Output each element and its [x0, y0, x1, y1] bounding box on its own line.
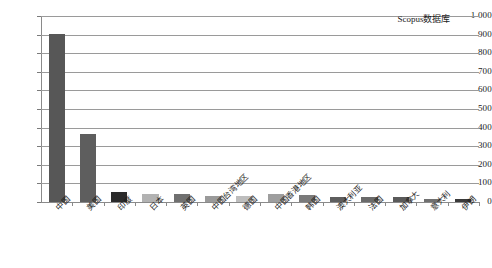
gridline [41, 128, 479, 129]
x-axis-tick-mark [135, 202, 136, 206]
plot-area [41, 16, 479, 202]
gridline [41, 35, 479, 36]
x-axis-tick-mark [448, 202, 449, 206]
gridline [41, 146, 479, 147]
x-axis-tick-mark [479, 202, 480, 206]
gridline [41, 183, 479, 184]
x-axis-tick-mark [323, 202, 324, 206]
bar [80, 134, 96, 202]
gridline [41, 53, 479, 54]
x-axis-tick-mark [229, 202, 230, 206]
x-axis-tick-mark [197, 202, 198, 206]
x-axis-tick-mark [291, 202, 292, 206]
gridline [41, 109, 479, 110]
gridline [41, 165, 479, 166]
x-axis-tick-mark [72, 202, 73, 206]
x-axis-tick-mark [416, 202, 417, 206]
gridline [41, 72, 479, 73]
gridline [41, 90, 479, 91]
x-axis-tick-mark [354, 202, 355, 206]
x-axis-tick-mark [166, 202, 167, 206]
bar [49, 34, 65, 202]
x-axis-tick-mark [385, 202, 386, 206]
x-axis-tick-mark [260, 202, 261, 206]
x-axis-tick-mark [104, 202, 105, 206]
bar-chart: 1 0009008007006005004003002001000 中国美国印度… [0, 0, 492, 268]
legend-label: Scopus数据库 [372, 14, 476, 25]
